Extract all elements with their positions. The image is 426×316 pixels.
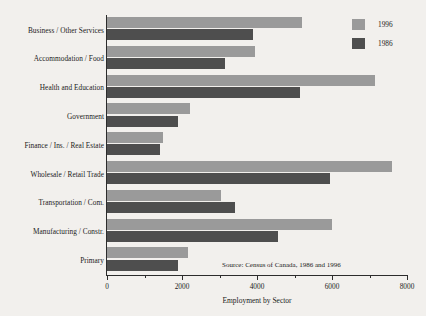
x-axis-title: Employment by Sector (107, 296, 407, 305)
category-label: Transportation / Com. (39, 199, 104, 206)
category-label: Government (67, 113, 104, 120)
x-tick-major (182, 276, 183, 280)
x-tick-label: 2000 (175, 282, 190, 291)
bar-1996-0 (107, 17, 302, 28)
bar-1986-5 (107, 173, 330, 184)
bar-chart: Business / Other ServicesAccommodation /… (0, 0, 426, 316)
legend-label: 1986 (378, 39, 393, 48)
category-label: Business / Other Services (28, 27, 104, 34)
y-axis-line (106, 15, 107, 276)
x-tick-major (257, 276, 258, 280)
category-label: Wholesale / Retail Trade (30, 171, 104, 178)
bar-1996-3 (107, 103, 190, 114)
chart-legend: 19961986 (352, 19, 422, 57)
bar-1986-0 (107, 29, 253, 40)
bar-1986-3 (107, 116, 178, 127)
bar-1996-2 (107, 75, 375, 86)
x-tick-label: 6000 (325, 282, 340, 291)
bar-1986-7 (107, 231, 278, 242)
bar-1986-8 (107, 260, 178, 271)
bar-1996-7 (107, 219, 332, 230)
category-axis-labels: Business / Other ServicesAccommodation /… (6, 0, 104, 316)
x-tick-minor (295, 276, 296, 278)
legend-item: 1986 (352, 38, 422, 57)
source-note: Source: Census of Canada, 1986 and 1996 (222, 261, 341, 269)
category-label: Accommodation / Food (34, 55, 104, 62)
bar-1996-5 (107, 161, 392, 172)
legend-item: 1996 (352, 19, 422, 38)
bar-1986-4 (107, 144, 160, 155)
legend-label: 1996 (378, 20, 393, 29)
x-tick-minor (370, 276, 371, 278)
bar-1986-6 (107, 202, 235, 213)
x-tick-major (107, 276, 108, 280)
bar-1986-2 (107, 87, 300, 98)
category-label: Manufacturing / Constr. (33, 228, 104, 235)
bar-1996-4 (107, 132, 163, 143)
x-tick-major (332, 276, 333, 280)
x-tick-minor (145, 276, 146, 278)
legend-swatch (352, 19, 365, 30)
bar-1986-1 (107, 58, 225, 69)
bar-1996-1 (107, 46, 255, 57)
category-label: Health and Education (40, 84, 104, 91)
x-tick-label: 0 (105, 282, 109, 291)
x-tick-major (407, 276, 408, 280)
x-tick-minor (220, 276, 221, 278)
bar-1996-6 (107, 190, 221, 201)
bar-1996-8 (107, 247, 188, 258)
x-tick-label: 4000 (250, 282, 265, 291)
x-tick-label: 8000 (400, 282, 415, 291)
category-label: Primary (80, 257, 104, 264)
category-label: Finance / Ins. / Real Estate (24, 142, 104, 149)
legend-swatch (352, 38, 365, 49)
